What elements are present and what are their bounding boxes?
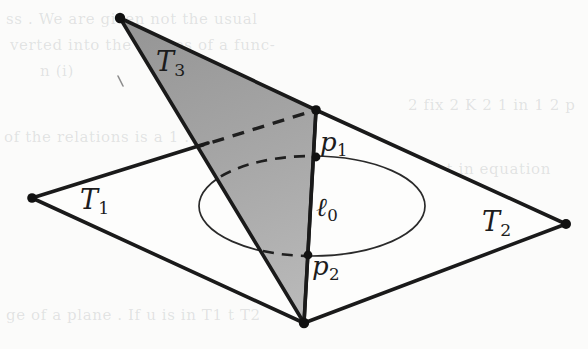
label-t2-sub: 2 (500, 220, 511, 240)
scan-artifact-mark (118, 76, 123, 86)
label-l0-base: ℓ (316, 192, 327, 222)
label-p1-sub: 1 (337, 141, 348, 160)
label-t3-sub: 3 (174, 60, 185, 80)
label-l0-sub: 0 (327, 206, 338, 225)
label-p2-sub: 2 (329, 265, 340, 284)
vertex-dot-right (561, 219, 571, 229)
label-t2-base: T (482, 206, 500, 237)
label-p2-base: p (312, 251, 329, 281)
vertex-dot-bottom (299, 318, 309, 328)
label-t1: T1 (80, 186, 109, 217)
label-t1-base: T (80, 184, 98, 215)
label-t2: T2 (482, 208, 511, 239)
label-p2: p2 (312, 253, 340, 283)
label-p1: p1 (320, 129, 348, 159)
label-t3: T3 (156, 48, 185, 79)
label-t1-sub: 1 (98, 198, 109, 218)
vertex-dot-top (311, 105, 321, 115)
label-t3-base: T (156, 46, 174, 77)
geometry-diagram (0, 0, 588, 349)
figure-canvas: ss . We are given not the usual verted i… (0, 0, 588, 349)
label-l0: ℓ0 (316, 194, 338, 224)
vertex-dot-left (27, 193, 37, 203)
label-p1-base: p (320, 127, 337, 157)
vertex-dot-apex (115, 13, 125, 23)
